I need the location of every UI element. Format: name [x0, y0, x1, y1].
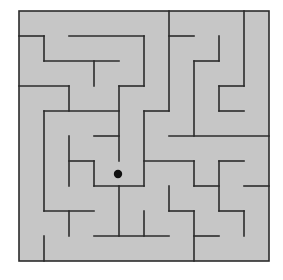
maze-board	[0, 0, 283, 280]
player-dot[interactable]	[114, 170, 122, 178]
